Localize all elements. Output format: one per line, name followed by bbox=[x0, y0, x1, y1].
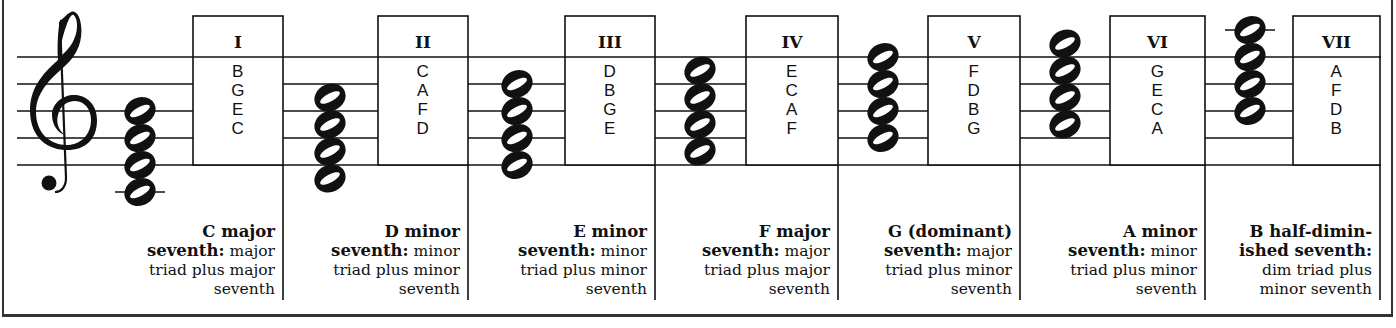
caption-quality: major bbox=[780, 242, 830, 260]
note-name: D bbox=[378, 119, 468, 138]
chord-note-names: AFDB bbox=[1293, 62, 1380, 138]
note-name: E bbox=[746, 62, 838, 81]
caption-line-2: seventh: minor bbox=[1068, 241, 1197, 261]
note-name: G bbox=[193, 81, 283, 100]
caption-line-2: seventh: major bbox=[884, 241, 1012, 261]
note-name: A bbox=[378, 81, 468, 100]
caption-line-4: seventh bbox=[702, 280, 830, 299]
caption-line-4: seventh bbox=[147, 280, 275, 299]
chord-name: E minor bbox=[518, 222, 647, 241]
note-name: F bbox=[746, 119, 838, 138]
caption-line-3: triad plus minor bbox=[1068, 261, 1197, 280]
caption-line-3: triad plus major bbox=[702, 261, 830, 280]
chord-caption: D minorseventh: minortriad plus minorsev… bbox=[331, 222, 460, 299]
chord-caption: E minorseventh: minortriad plus minorsev… bbox=[518, 222, 647, 299]
roman-numeral-label: VI bbox=[1110, 32, 1205, 52]
caption-line-2: seventh: major bbox=[702, 241, 830, 261]
note-name: A bbox=[1293, 62, 1380, 81]
caption-line-4: seventh bbox=[1068, 280, 1197, 299]
caption-line-3: triad plus minor bbox=[518, 261, 647, 280]
chord-note-names: FDBG bbox=[928, 62, 1020, 138]
caption-quality: minor bbox=[409, 242, 460, 260]
note-name: E bbox=[1110, 81, 1205, 100]
chord-vii bbox=[1230, 11, 1270, 130]
chord-note-names: ECAF bbox=[746, 62, 838, 138]
caption-line-3: dim triad plus bbox=[1239, 261, 1372, 280]
caption-line-2: seventh: minor bbox=[331, 241, 460, 261]
chord-name: G (dominant) bbox=[884, 222, 1012, 241]
note-name: B bbox=[1293, 119, 1380, 138]
chord-i bbox=[120, 92, 160, 211]
note-name: G bbox=[565, 100, 655, 119]
note-name: G bbox=[1110, 62, 1205, 81]
caption-line-4: seventh bbox=[518, 280, 647, 299]
chord-name: D minor bbox=[331, 222, 460, 241]
note-name: B bbox=[928, 100, 1020, 119]
note-name: A bbox=[1110, 119, 1205, 138]
caption-line-4: minor seventh bbox=[1239, 280, 1372, 299]
chord-note-names: CAFD bbox=[378, 62, 468, 138]
note-name: C bbox=[193, 119, 283, 138]
note-name: E bbox=[565, 119, 655, 138]
caption-bold-term: seventh: bbox=[884, 241, 962, 260]
caption-line-2: ished seventh: bbox=[1239, 241, 1372, 261]
caption-line-2: seventh: minor bbox=[518, 241, 647, 261]
roman-numeral-label: I bbox=[193, 32, 283, 52]
note-name: C bbox=[746, 81, 838, 100]
caption-bold-term: seventh: bbox=[518, 241, 596, 260]
caption-bold-term: seventh: bbox=[702, 241, 780, 260]
chord-name: C major bbox=[147, 222, 275, 241]
note-name: D bbox=[928, 81, 1020, 100]
roman-numeral-label: IV bbox=[746, 32, 838, 52]
chord-note-names: GECA bbox=[1110, 62, 1205, 138]
roman-numeral-label: II bbox=[378, 32, 468, 52]
chord-caption: F majorseventh: majortriad plus majorsev… bbox=[702, 222, 830, 299]
chord-caption: C majorseventh: majortriad plus majorsev… bbox=[147, 222, 275, 299]
chord-name: F major bbox=[702, 222, 830, 241]
note-name: E bbox=[193, 100, 283, 119]
note-name: F bbox=[928, 62, 1020, 81]
note-name: F bbox=[1293, 81, 1380, 100]
caption-bold-term: seventh: bbox=[1068, 241, 1146, 260]
caption-quality: minor bbox=[596, 242, 647, 260]
chord-caption: A minorseventh: minortriad plus minorsev… bbox=[1068, 222, 1197, 299]
caption-line-3: triad plus minor bbox=[331, 261, 460, 280]
roman-numeral-label: VII bbox=[1293, 32, 1380, 52]
note-name: A bbox=[746, 100, 838, 119]
note-name: C bbox=[378, 62, 468, 81]
caption-line-3: triad plus minor bbox=[884, 261, 1012, 280]
note-name: D bbox=[565, 62, 655, 81]
caption-line-4: seventh bbox=[884, 280, 1012, 299]
caption-line-4: seventh bbox=[331, 280, 460, 299]
chord-note-names: DBGE bbox=[565, 62, 655, 138]
caption-line-2: seventh: major bbox=[147, 241, 275, 261]
roman-numeral-label: V bbox=[928, 32, 1020, 52]
note-name: B bbox=[565, 81, 655, 100]
caption-bold-term: ished seventh: bbox=[1239, 241, 1372, 260]
note-name: F bbox=[378, 100, 468, 119]
chord-note-names: BGEC bbox=[193, 62, 283, 138]
caption-quality: major bbox=[962, 242, 1012, 260]
roman-numeral-label: III bbox=[565, 32, 655, 52]
note-name: G bbox=[928, 119, 1020, 138]
chord-name: A minor bbox=[1068, 222, 1197, 241]
caption-line-3: triad plus major bbox=[147, 261, 275, 280]
chord-v bbox=[863, 38, 903, 157]
chord-name: B half-dimin- bbox=[1239, 222, 1372, 241]
caption-quality: major bbox=[225, 242, 275, 260]
note-name: D bbox=[1293, 100, 1380, 119]
note-name: B bbox=[193, 62, 283, 81]
diagram-frame: IBGECIICAFDIIIDBGEIVECAFVFDBGVIGECAVIIAF… bbox=[0, 0, 1396, 328]
chord-caption: B half-dimin-ished seventh:dim triad plu… bbox=[1239, 222, 1372, 299]
note-name: C bbox=[1110, 100, 1205, 119]
chord-caption: G (dominant)seventh: majortriad plus min… bbox=[884, 222, 1012, 299]
caption-bold-term: seventh: bbox=[147, 241, 225, 260]
chord-iii bbox=[497, 65, 537, 184]
caption-quality: minor bbox=[1146, 242, 1197, 260]
caption-bold-term: seventh: bbox=[331, 241, 409, 260]
